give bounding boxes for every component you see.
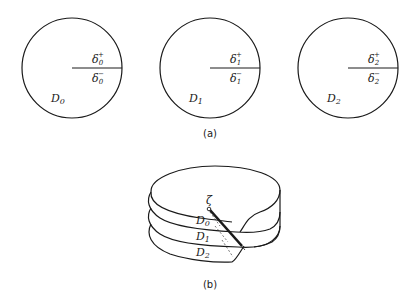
disk-d0-upper-edge-label: δ0+ bbox=[92, 51, 104, 67]
disk-d1-upper-edge-label: δ1+ bbox=[230, 51, 242, 67]
disk-d2-lower-edge-label: δ2− bbox=[368, 70, 380, 86]
figure-a: δ0+ δ0− D0 δ1+ δ1− D1 δ2+ δ2− D2 (a) bbox=[22, 18, 398, 139]
disk-d1-label: D1 bbox=[188, 92, 203, 106]
caption-a: (a) bbox=[203, 128, 217, 139]
disk-d2-label: D2 bbox=[326, 92, 341, 106]
layer-d0-label: D0 bbox=[195, 214, 210, 228]
disk-d0: δ0+ δ0− D0 bbox=[22, 18, 122, 118]
zeta-label: ζ bbox=[206, 194, 213, 207]
disk-d2-upper-edge-label: δ2+ bbox=[368, 51, 380, 67]
disk-d0-label: D0 bbox=[50, 92, 65, 106]
layer-d2-label: D2 bbox=[195, 246, 210, 260]
dashed-radius-d2 bbox=[222, 240, 233, 257]
disk-d1: δ1+ δ1− D1 bbox=[160, 18, 260, 118]
disk-d2: δ2+ δ2− D2 bbox=[298, 18, 398, 118]
disk-d1-lower-edge-label: δ1− bbox=[230, 70, 242, 86]
disk-d0-lower-edge-label: δ0− bbox=[92, 70, 104, 86]
caption-b: (b) bbox=[203, 279, 217, 290]
layer-d1-label: D1 bbox=[195, 230, 210, 244]
diagram-canvas: δ0+ δ0− D0 δ1+ δ1− D1 δ2+ δ2− D2 (a) bbox=[0, 0, 417, 300]
figure-b: ζ D0 D1 D2 (b) bbox=[148, 166, 280, 290]
stack-top-surface bbox=[151, 166, 280, 232]
stack-layer-d0-edge bbox=[151, 192, 232, 222]
branch-point-zeta bbox=[207, 207, 211, 211]
